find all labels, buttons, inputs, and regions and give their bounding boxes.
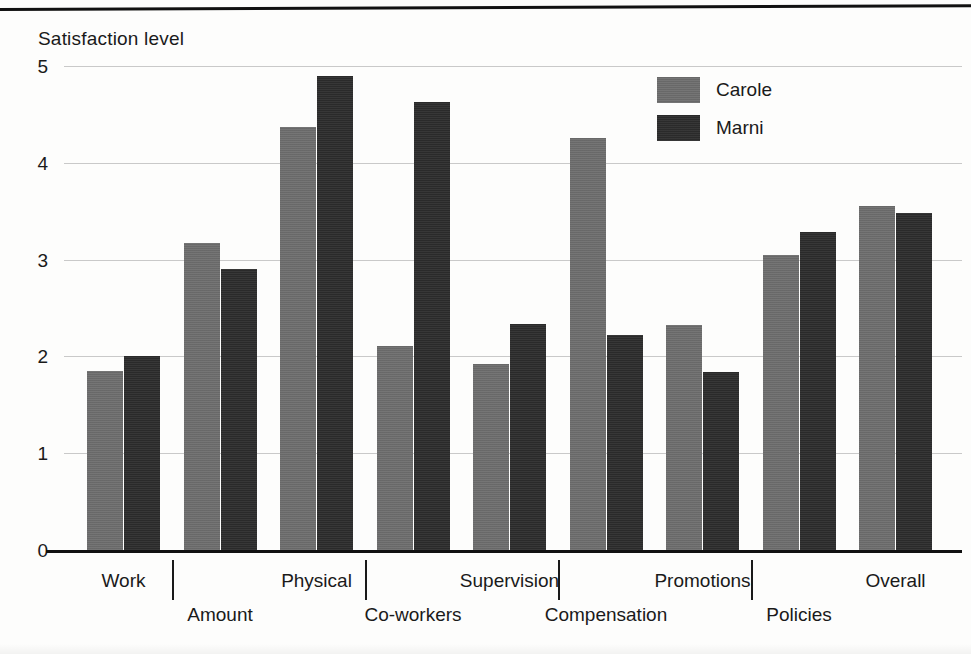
legend-label: Carole — [716, 79, 772, 101]
bar-group — [377, 66, 450, 550]
page-top-rule — [0, 4, 971, 11]
legend-label: Marni — [716, 117, 764, 139]
x-axis-label: Co-workers — [364, 604, 461, 626]
bar — [570, 138, 606, 550]
bar — [510, 324, 546, 550]
bar — [859, 206, 895, 550]
bar — [666, 325, 702, 550]
bar-group — [87, 66, 160, 550]
legend-swatch-icon — [657, 115, 700, 141]
chart-legend: CaroleMarni — [657, 74, 857, 150]
x-axis-label: Compensation — [545, 604, 668, 626]
x-axis-label: Amount — [187, 604, 252, 626]
legend-item: Carole — [657, 74, 857, 106]
bar — [896, 213, 932, 550]
bar-group — [570, 66, 643, 550]
bar-group — [184, 66, 257, 550]
bar — [800, 232, 836, 550]
x-axis-tick — [751, 560, 753, 600]
bar — [87, 371, 123, 550]
page-bottom-edge — [0, 644, 971, 654]
legend-item: Marni — [657, 112, 857, 144]
y-axis-tick-label: 4 — [37, 153, 48, 172]
bar — [317, 76, 353, 550]
y-axis-tick-label: 5 — [37, 57, 48, 76]
x-axis-label: Promotions — [654, 570, 750, 592]
x-axis-label: Overall — [865, 570, 925, 592]
bar — [184, 243, 220, 550]
x-axis-line — [46, 550, 962, 553]
x-axis-labels: WorkAmountPhysicalCo-workersSupervisionC… — [64, 556, 962, 648]
legend-swatch-icon — [657, 77, 700, 103]
bar — [221, 269, 257, 550]
x-axis-label: Policies — [766, 604, 831, 626]
y-axis-tick-label: 2 — [37, 347, 48, 366]
bar — [124, 356, 160, 550]
bar — [763, 255, 799, 550]
bar-group — [280, 66, 353, 550]
y-axis-title: Satisfaction level — [38, 28, 184, 50]
bar — [414, 102, 450, 550]
x-axis-label: Supervision — [460, 570, 559, 592]
bar-group — [473, 66, 546, 550]
bar — [703, 372, 739, 550]
chart-page: Satisfaction level 012345 WorkAmountPhys… — [0, 0, 971, 654]
bar — [473, 364, 509, 550]
y-axis-tick-label: 1 — [37, 444, 48, 463]
x-axis-label: Physical — [281, 570, 352, 592]
x-axis-tick — [172, 560, 174, 600]
x-axis-label: Work — [102, 570, 146, 592]
bar — [377, 346, 413, 550]
bar — [280, 127, 316, 550]
bar-group — [859, 66, 932, 550]
y-axis-tick-label: 3 — [37, 250, 48, 269]
x-axis-tick — [558, 560, 560, 600]
x-axis-tick — [365, 560, 367, 600]
bar — [607, 335, 643, 550]
